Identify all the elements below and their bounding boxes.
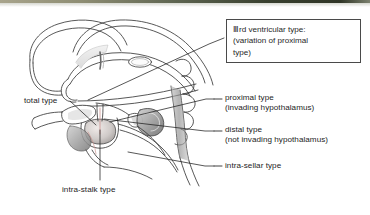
massa-intermedia-inner (131, 59, 148, 66)
label-intra-sellar-type-title: intra-sellar type (225, 161, 281, 170)
sphenoid-sinus-outline (86, 150, 104, 167)
callout-leader (88, 38, 224, 100)
label-intra-stalk-type-title: intra-stalk type (62, 185, 115, 194)
callout-line-1: Ⅲrd ventricular type: (233, 24, 355, 35)
third-ventricular-type-callout: Ⅲrd ventricular type: (variation of prox… (226, 19, 361, 63)
callosum-genu (61, 79, 76, 102)
label-intra-stalk-type: intra-stalk type (62, 185, 115, 195)
fornix-column (100, 52, 101, 69)
frontal-base-left (30, 60, 62, 95)
label-distal-type-sub: (not invading hypothalamus) (225, 135, 328, 145)
callosum-genu-inner (66, 84, 77, 100)
optic-nerve-lower (35, 121, 63, 129)
callout-line-2: (variation of proximal (233, 35, 355, 46)
optic-nerve-upper (34, 112, 62, 118)
fornix-column-highlight (103, 53, 104, 68)
leader-ticks (214, 99, 222, 166)
label-intra-sellar-type: intra-sellar type (225, 161, 281, 171)
brainstem-shade (171, 86, 189, 161)
label-total-type-title: total type (24, 96, 57, 105)
pituitary-stalk-left (97, 104, 98, 121)
label-total-type: total type (24, 96, 57, 106)
callout-line-3: type) (233, 47, 355, 58)
optic-nerve-cap (32, 118, 35, 129)
label-proximal-type-title: proximal type (225, 93, 274, 102)
clival-floor (104, 167, 152, 179)
clivus-contour-inner (120, 130, 177, 172)
figure-canvas: Ⅲrd ventricular type: (variation of prox… (0, 0, 370, 215)
label-proximal-type: proximal type (invading hypothalamus) (225, 93, 314, 113)
label-proximal-type-sub: (invading hypothalamus) (225, 103, 314, 113)
label-distal-type-title: distal type (225, 125, 262, 134)
midbrain-outline (176, 59, 191, 76)
label-distal-type: distal type (not invading hypothalamus) (225, 125, 328, 145)
pituitary-stalk-right (102, 104, 103, 121)
